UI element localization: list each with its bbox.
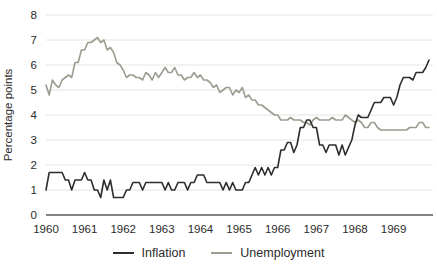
y-tick-label-0: 0 xyxy=(31,209,37,221)
inflation-line-swatch xyxy=(113,252,134,254)
y-tick-label-5: 5 xyxy=(31,84,37,96)
y-tick-label-3: 3 xyxy=(31,134,37,146)
legend-item-unemployment: Unemployment xyxy=(211,247,324,260)
x-tick-label-1967: 1967 xyxy=(304,223,330,235)
legend-unemployment-label: Unemployment xyxy=(240,247,324,260)
unemployment-line-swatch xyxy=(211,252,232,254)
y-tick-label-8: 8 xyxy=(31,9,37,21)
y-tick-label-6: 6 xyxy=(31,59,37,71)
x-tick-label-1965: 1965 xyxy=(226,223,252,235)
phillips-curve-chart: 0123456781960196119621963196419651966196… xyxy=(0,0,437,271)
series-line-unemployment xyxy=(46,38,429,131)
x-tick-label-1964: 1964 xyxy=(188,223,214,235)
y-tick-label-2: 2 xyxy=(31,159,37,171)
y-tick-label-7: 7 xyxy=(31,34,37,46)
y-axis-title: Percentage points xyxy=(2,68,14,161)
x-tick-label-1962: 1962 xyxy=(110,223,136,235)
y-tick-label-1: 1 xyxy=(31,184,37,196)
x-tick-label-1963: 1963 xyxy=(149,223,175,235)
x-tick-label-1961: 1961 xyxy=(72,223,98,235)
x-tick-label-1960: 1960 xyxy=(33,223,59,235)
chart-legend: Inflation Unemployment xyxy=(0,241,437,265)
x-tick-label-1969: 1969 xyxy=(381,223,407,235)
series-line-inflation xyxy=(46,60,429,198)
y-tick-label-4: 4 xyxy=(31,109,38,121)
legend-inflation-label: Inflation xyxy=(142,247,186,260)
legend-item-inflation: Inflation xyxy=(113,247,186,260)
chart-svg: 0123456781960196119621963196419651966196… xyxy=(0,0,437,241)
x-tick-label-1966: 1966 xyxy=(265,223,291,235)
x-tick-label-1968: 1968 xyxy=(342,223,368,235)
